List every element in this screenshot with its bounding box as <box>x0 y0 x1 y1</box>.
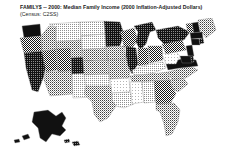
state-AR[interactable] <box>110 78 130 93</box>
state-IN[interactable] <box>138 48 149 66</box>
state-OK[interactable] <box>84 74 110 87</box>
state-WA[interactable] <box>22 24 41 38</box>
state-AK[interactable] <box>32 110 66 142</box>
state-AK-aleutian-2[interactable] <box>14 139 20 143</box>
state-MS[interactable] <box>130 82 144 104</box>
state-OH[interactable] <box>148 46 163 63</box>
state-CA[interactable] <box>24 51 46 92</box>
state-HI-2[interactable] <box>72 141 80 146</box>
state-ND[interactable] <box>80 21 105 36</box>
figure-title-block: FAMILY$ -- 2000: Median Family Income (2… <box>20 4 230 18</box>
state-NE[interactable] <box>82 48 108 61</box>
us-choropleth-map <box>0 18 234 164</box>
state-AL[interactable] <box>142 81 156 103</box>
map-figure: FAMILY$ -- 2000: Median Family Income (2… <box>0 0 234 164</box>
figure-subtitle: (Census: C2SS) <box>20 11 230 18</box>
states-layer <box>14 18 216 146</box>
state-SD[interactable] <box>81 34 106 50</box>
state-MA[interactable] <box>190 32 203 39</box>
map-svg <box>0 18 234 164</box>
page-title: FAMILY$ -- 2000: Median Family Income (2… <box>20 4 230 11</box>
state-NY[interactable] <box>156 26 190 44</box>
state-NJ[interactable] <box>186 45 194 56</box>
state-OR[interactable] <box>20 36 42 53</box>
state-FL[interactable] <box>156 103 180 136</box>
state-TX[interactable] <box>84 86 116 122</box>
state-KS[interactable] <box>83 60 109 75</box>
state-ID[interactable] <box>41 26 57 51</box>
state-AZ[interactable] <box>44 71 73 96</box>
state-MI[interactable] <box>134 22 156 50</box>
state-MD[interactable] <box>180 56 192 63</box>
state-HI-1[interactable] <box>64 139 70 143</box>
state-AK-aleutian-1[interactable] <box>22 134 30 140</box>
state-IA[interactable] <box>106 46 126 60</box>
state-CT[interactable] <box>191 39 200 45</box>
state-UT[interactable] <box>57 48 72 73</box>
